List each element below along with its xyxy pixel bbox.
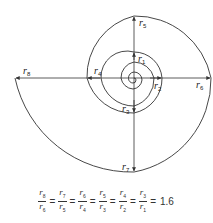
spiral-curve: [15, 16, 211, 172]
fraction-r7-r5: r7r5: [58, 188, 66, 215]
ratio-result: 1.6: [160, 196, 174, 207]
label-r5: r5: [139, 17, 147, 29]
fraction-r5-r3: r5r3: [99, 188, 107, 215]
fraction-r4-r2: r4r2: [119, 188, 127, 215]
label-r6: r6: [196, 79, 204, 91]
fraction-r3-r1: r3r1: [139, 188, 147, 215]
label-r4: r4: [94, 65, 102, 77]
label-r8: r8: [23, 65, 31, 77]
label-r1: r1: [138, 53, 146, 65]
label-r2: r2: [154, 80, 162, 92]
ratio-formula: r8r6=r7r5=r6r4=r5r3=r4r2=r3r1=1.6: [0, 188, 213, 215]
label-r7: r7: [122, 161, 130, 173]
fraction-r6-r4: r6r4: [78, 188, 86, 215]
spiral-diagram: r1 r2 r3 r4 r5 r6 r7 r8: [0, 0, 213, 185]
fraction-r8-r6: r8r6: [38, 188, 46, 215]
